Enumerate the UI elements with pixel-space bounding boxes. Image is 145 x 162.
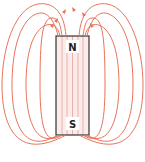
north-pole-label: N: [68, 42, 76, 53]
arrow-icon: [90, 23, 94, 28]
south-pole-label: S: [69, 119, 76, 130]
arrow-icon: [50, 23, 54, 28]
bar-magnet-field-diagram: N S: [0, 0, 145, 162]
arrow-icon: [72, 7, 76, 12]
arrow-icon: [62, 9, 66, 14]
